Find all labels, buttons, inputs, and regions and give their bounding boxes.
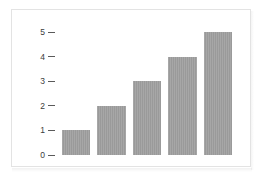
y-axis-tick-label: 2: [40, 101, 45, 111]
y-axis-tick-mark: [48, 105, 55, 106]
screenshot-root: 012345: [0, 0, 269, 189]
y-axis-tick-mark: [48, 130, 55, 131]
bar: [204, 32, 232, 155]
y-axis-tick: 1: [11, 125, 58, 135]
y-axis-tick-mark: [48, 56, 55, 57]
card-shadow-right: [251, 11, 254, 170]
y-axis-tick-label: 5: [40, 27, 45, 37]
y-axis-tick-label: 3: [40, 76, 45, 86]
y-axis-tick: 5: [11, 27, 58, 37]
y-axis-tick: 4: [11, 52, 58, 62]
y-axis-tick-label: 1: [40, 125, 45, 135]
bar: [168, 57, 196, 155]
card-shadow-bottom: [12, 168, 252, 172]
bar-chart-plot-area: 012345: [11, 9, 251, 167]
y-axis-tick-label: 0: [40, 150, 45, 160]
y-axis-tick: 3: [11, 76, 58, 86]
bar: [133, 81, 161, 155]
bar: [62, 130, 90, 155]
y-axis-tick-label: 4: [40, 52, 45, 62]
y-axis-tick: 2: [11, 101, 58, 111]
y-axis-tick-mark: [48, 81, 55, 82]
y-axis-tick: 0: [11, 150, 58, 160]
y-axis-tick-mark: [48, 32, 55, 33]
bar: [97, 106, 125, 155]
y-axis-tick-mark: [48, 155, 55, 156]
